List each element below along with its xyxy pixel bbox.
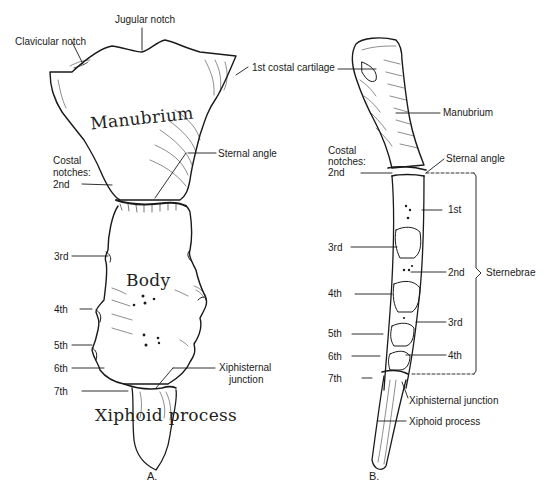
label-xiphisternal-a-2: junction xyxy=(229,374,263,385)
label-costal-4th-a: 4th xyxy=(54,304,68,315)
label-xiphisternal-junction-b: Xiphisternal junction xyxy=(409,395,499,406)
label-first-costal-cartilage: 1st costal cartilage xyxy=(252,62,335,73)
label-costal-4th-b: 4th xyxy=(328,288,342,299)
label-costal-notches-b-1: Costal xyxy=(328,145,356,156)
label-sternal-angle-a: Sternal angle xyxy=(218,148,277,159)
label-costal-3rd-a: 3rd xyxy=(54,251,68,262)
label-sternebra-1st: 1st xyxy=(448,204,461,215)
label-jugular-notch: Jugular notch xyxy=(115,14,175,25)
label-costal-5th-b: 5th xyxy=(328,328,342,339)
label-sternal-angle-b: Sternal angle xyxy=(446,153,505,164)
label-costal-notches-a-1: Costal xyxy=(53,155,81,166)
label-costal-6th-a: 6th xyxy=(54,363,68,374)
label-body-region: Body xyxy=(126,270,170,290)
label-xiphisternal-a-1: Xiphisternal xyxy=(219,362,271,373)
caption-figure-b: B. xyxy=(369,470,379,482)
label-xiphoid-region: Xiphoid process xyxy=(95,405,237,425)
label-costal-7th-a: 7th xyxy=(54,386,68,397)
label-costal-2nd-a: 2nd xyxy=(53,179,70,190)
label-clavicular-notch: Clavicular notch xyxy=(15,36,86,47)
label-costal-7th-b: 7th xyxy=(328,373,342,384)
label-sternebra-4th: 4th xyxy=(448,350,462,361)
label-sternebra-2nd: 2nd xyxy=(448,267,465,278)
label-costal-6th-b: 6th xyxy=(328,351,342,362)
label-xiphoid-process-b: Xiphoid process xyxy=(409,416,480,427)
label-sternebrae: Sternebrae xyxy=(486,267,535,278)
label-costal-5th-a: 5th xyxy=(54,340,68,351)
caption-figure-a: A. xyxy=(147,470,157,482)
label-costal-notches-b-2: notches: xyxy=(328,156,366,167)
label-costal-3rd-b: 3rd xyxy=(328,242,342,253)
label-costal-2nd-b: 2nd xyxy=(328,167,345,178)
label-costal-notches-a-2: notches: xyxy=(53,167,91,178)
label-manubrium-b: Manubrium xyxy=(443,107,493,118)
label-sternebra-3rd: 3rd xyxy=(448,317,462,328)
